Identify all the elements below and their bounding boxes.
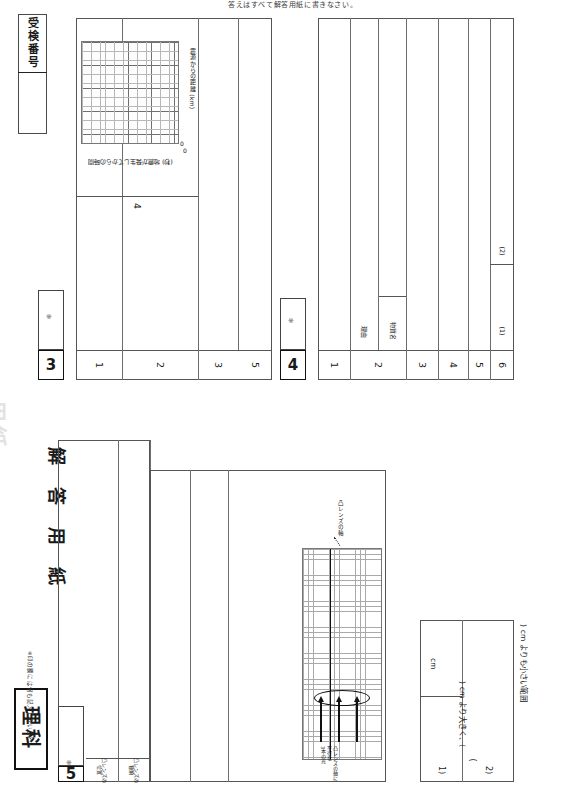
question-5-range-sentence-part3: ) cm よりも小さい範囲	[514, 624, 532, 787]
question-5-row-4-2-tag: 2)	[476, 744, 500, 787]
question-3-graph-x-axis-label: 地震が発生してからの時間	[88, 158, 160, 167]
question-4-row-6-sublabel-2: (2)	[489, 239, 515, 263]
question-3-graph-origin-0a: 0	[180, 140, 184, 147]
exam-number-label-text: 受検番号	[18, 14, 47, 72]
question-4-row-3-number: 3	[407, 349, 437, 381]
question-5-row-3-answer-area[interactable]	[191, 470, 228, 782]
question-4-row-2-sub-separator	[379, 296, 406, 297]
watermark-ghost: 用紙	[0, 400, 6, 450]
question-4-row-2-reason-area[interactable]	[351, 18, 378, 349]
light-ray-2	[338, 700, 340, 742]
question-4-row-1-answer-area[interactable]	[318, 18, 350, 349]
question-4-row-3-answer-area[interactable]	[407, 18, 438, 349]
question-5-row-1-sublabel-position: 凸レンズの 位置	[92, 756, 112, 784]
question-4-score-mark: ※	[288, 318, 294, 325]
question-4-row-4-answer-area[interactable]	[439, 18, 468, 349]
question-5-lens-drawing-grid[interactable]	[302, 548, 382, 760]
question-5-row-1-type-area[interactable]	[119, 440, 149, 758]
question-3-graph-origin-0b: 0	[183, 147, 187, 154]
question-5-range-sentence-part2: ) cm より大きく、(	[453, 681, 471, 787]
question-4-row-1-number: 1	[319, 349, 349, 381]
question-3-number-tag: 3	[38, 350, 64, 380]
lens-axis-label: 凸レンズの軸	[338, 500, 344, 536]
question-4-row-2-substance-area[interactable]	[379, 18, 406, 295]
question-3-score-mark: ※	[46, 314, 52, 321]
question-5-range-sentence-part1: (	[468, 758, 476, 761]
top-note-text: 答えはすべて解答用紙に書きなさい。	[228, 2, 357, 9]
question-4-row-6-number: 6	[487, 353, 517, 377]
question-3-graph-grid[interactable]	[81, 41, 179, 144]
question-4-row-5-answer-area[interactable]	[469, 18, 490, 349]
question-4-row-6-1-answer-area[interactable]	[491, 266, 514, 344]
light-ray-3-arrowhead	[354, 696, 360, 702]
question-3-graph-y-axis-label: 震源からの距離 (km)	[188, 48, 197, 110]
question-5-row-4-1-tag: 1)	[429, 749, 453, 787]
question-5-row-2-answer-area[interactable]	[151, 470, 190, 782]
question-5-row-1-position-area[interactable]	[87, 440, 117, 758]
caution-note: ※印の欄には何も記入しないこと。	[23, 651, 35, 761]
q3-graph-divider	[198, 18, 199, 198]
question-5-score-box	[58, 706, 84, 766]
question-3-row-5-answer-area[interactable]	[239, 18, 272, 349]
light-ray-3	[356, 700, 358, 742]
light-ray-1	[320, 700, 322, 742]
q5-vline-4	[228, 470, 229, 782]
question-3-row-3-answer-area[interactable]	[199, 18, 237, 349]
light-rays-label: 凸レンズの軸に平行な 3本の光	[320, 746, 338, 782]
light-ray-1-arrowhead	[318, 696, 324, 702]
question-3-row-5-number: 5	[240, 348, 270, 382]
question-4-row-6-2-answer-area[interactable]	[491, 150, 514, 236]
exam-number-write-area[interactable]	[18, 73, 47, 134]
light-ray-2-arrowhead	[336, 696, 342, 702]
question-4-row-6-sub-separator	[490, 264, 514, 265]
question-4-row-2-sublabel-substance: 物質名	[378, 318, 408, 345]
question-3-row-3-number: 3	[203, 345, 233, 385]
question-5-score-mark: ※	[66, 760, 72, 767]
question-5-row-1-sublabel-type: 凸レンズの 種類	[124, 756, 144, 784]
lens-axis-line	[330, 549, 331, 759]
question-3-graph-x-axis-unit: (秒)	[162, 158, 173, 167]
question-4-number-tag: 4	[280, 350, 306, 380]
question-5-number-tag: 5	[58, 766, 84, 782]
